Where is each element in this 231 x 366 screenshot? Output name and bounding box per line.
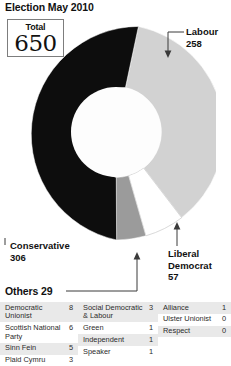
page-title: Election May 2010 — [5, 1, 94, 13]
callout-labour-name: Labour — [186, 26, 218, 37]
legend-row: Ulster Unionist 0 — [158, 314, 231, 326]
legend-column-1: Democratic Unionist 8 Scottish National … — [0, 302, 78, 366]
legend-row: Independent 1 — [78, 334, 158, 346]
legend-party: Sinn Fein — [5, 344, 40, 353]
legend-seats: 3 — [149, 304, 153, 313]
legend-row: Green 1 — [78, 322, 158, 334]
legend-column-3: Alliance 1 Ulster Unionist 0 Respect 0 — [158, 302, 231, 366]
callout-liberal-democrat: Liberal Democrat 57 — [168, 248, 212, 283]
legend-seats: 8 — [69, 304, 73, 313]
callout-conservative: Conservative 306 — [10, 240, 70, 263]
others-legend-table: Democratic Unionist 8 Scottish National … — [0, 302, 231, 366]
callout-libdem-name2: Democrat — [168, 260, 212, 272]
legend-seats: 3 — [69, 356, 73, 365]
callout-conservative-name: Conservative — [10, 240, 70, 251]
legend-party: Scottish National Party — [5, 324, 69, 341]
legend-seats: 1 — [149, 336, 153, 345]
legend-row: Democratic Unionist 8 — [0, 302, 78, 322]
donut-hole — [71, 87, 161, 177]
legend-seats: 1 — [222, 304, 226, 313]
legend-party: Democratic Unionist — [5, 304, 69, 321]
legend-party: Green — [83, 324, 108, 333]
legend-row: Speaker 1 — [78, 346, 158, 358]
donut-chart — [16, 22, 216, 252]
legend-row: Alliance 1 — [158, 302, 231, 314]
legend-party: Social Democratic & Labour — [83, 304, 149, 321]
legend-row: Plaid Cymru 3 — [0, 355, 78, 366]
arrow-others — [134, 252, 141, 260]
legend-column-2: Social Democratic & Labour 3 Green 1 Ind… — [78, 302, 158, 366]
legend-party: Respect — [163, 327, 194, 336]
leader-line-others — [66, 258, 137, 291]
others-heading: Others 29 — [5, 285, 53, 297]
legend-seats: 1 — [149, 348, 153, 357]
legend-party: Alliance — [163, 304, 193, 313]
callout-labour: Labour 258 — [186, 26, 218, 49]
legend-row: Respect 0 — [158, 326, 231, 338]
legend-party: Independent — [83, 336, 128, 345]
legend-party: Ulster Unionist — [163, 315, 215, 324]
legend-seats: 1 — [149, 324, 153, 333]
legend-row: Social Democratic & Labour 3 — [78, 302, 158, 322]
callout-libdem-seats: 57 — [168, 271, 212, 283]
legend-seats: 6 — [69, 324, 73, 333]
legend-party: Plaid Cymru — [5, 356, 49, 365]
legend-row: Sinn Fein 5 — [0, 343, 78, 355]
callout-conservative-seats: 306 — [10, 252, 70, 264]
legend-row: Scottish National Party 6 — [0, 322, 78, 342]
callout-labour-seats: 258 — [186, 38, 218, 50]
legend-seats: 5 — [69, 344, 73, 353]
legend-seats: 0 — [222, 327, 226, 336]
legend-seats: 0 — [222, 315, 226, 324]
legend-party: Speaker — [83, 348, 115, 357]
donut-chart-svg — [16, 22, 216, 252]
callout-libdem-name: Liberal — [168, 248, 199, 259]
